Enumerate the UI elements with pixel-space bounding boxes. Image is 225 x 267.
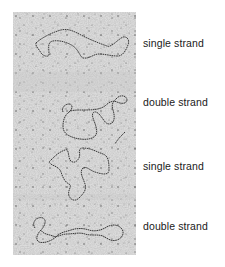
panel-label-3: single strand [143, 160, 204, 172]
panel-label-2: double strand [143, 96, 208, 108]
dna-micrograph-figure: single strand double strand single stran… [0, 0, 225, 267]
panel-label-4: double strand [143, 220, 208, 232]
electron-micrograph [13, 12, 136, 255]
panel-label-1: single strand [143, 37, 204, 49]
